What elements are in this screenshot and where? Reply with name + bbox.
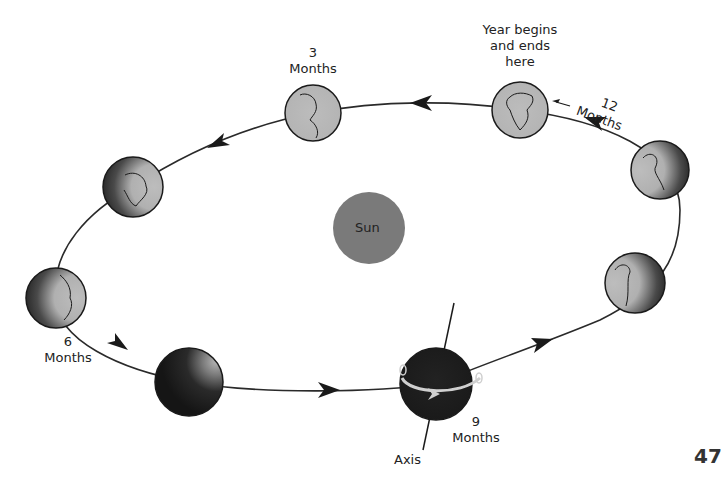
label-6-months: 6 Months xyxy=(38,334,98,366)
label-9-months: 9 Months xyxy=(446,414,506,446)
start-pointer-arrow xyxy=(552,99,570,106)
page-number: 47 xyxy=(694,444,722,468)
earth-start-12-months xyxy=(492,82,548,138)
earth-7-8-months xyxy=(155,348,223,416)
arrow-icon xyxy=(107,333,128,350)
earth-4-5-months xyxy=(103,157,163,217)
earth-10-months xyxy=(605,253,665,313)
earth-11-months xyxy=(631,141,689,199)
earth-3-months xyxy=(285,85,341,141)
label-axis: Axis xyxy=(394,452,421,468)
earth-9-months xyxy=(400,348,482,420)
arrow-icon xyxy=(318,382,340,398)
arrow-icon xyxy=(207,133,230,148)
label-3-months: 3 Months xyxy=(283,45,343,77)
label-year-begins: Year begins and ends here xyxy=(470,22,570,70)
sun-label: Sun xyxy=(355,220,380,235)
orbit-diagram xyxy=(0,0,728,483)
earth-6-months xyxy=(26,268,86,328)
